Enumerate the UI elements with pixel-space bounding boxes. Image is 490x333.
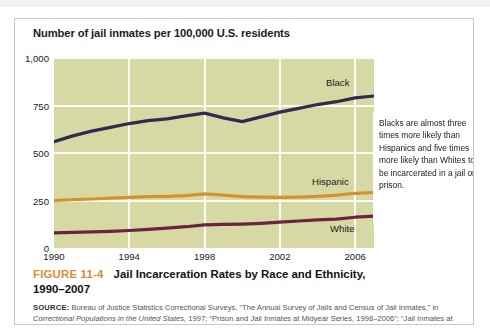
source-text-part1: Bureau of Justice Statistics Correctiona… [69, 303, 438, 312]
series-line-white [54, 216, 374, 233]
figure-title: Jail Incarceration Rates by Race and Eth… [114, 268, 366, 280]
caption-first-line: FIGURE 11-4Jail Incarceration Rates by R… [33, 267, 457, 282]
source-text-italic: Correctional Populations in the United S… [33, 314, 186, 323]
series-line-black [54, 96, 374, 142]
callout-box: Blacks are almost three times more likel… [373, 103, 474, 225]
x-axis-tick: 2006 [345, 251, 366, 262]
series-line-hispanic [54, 193, 374, 201]
x-axis-tick: 1998 [194, 251, 215, 262]
figure-title-second-line: 1990–2007 [33, 282, 457, 297]
y-axis-tick: 750 [33, 100, 49, 111]
series-label-hispanic: Hispanic [312, 176, 349, 187]
page-top-strip [0, 0, 490, 7]
y-axis-tick: 1,000 [25, 53, 49, 64]
y-axis-tick-labels: 02505007501,000 [14, 58, 49, 248]
figure-source: SOURCE: Bureau of Justice Statistics Cor… [33, 302, 457, 326]
x-axis-tick-labels: 19901994199820022006 [54, 251, 374, 267]
callout-text: Blacks are almost three times more likel… [379, 117, 474, 191]
y-axis-tick: 250 [33, 195, 49, 206]
x-axis-tick: 1990 [43, 251, 64, 262]
chart-plot: BlackHispanicWhite [54, 58, 374, 248]
series-label-black: Black [326, 77, 349, 88]
series-label-white: White [330, 223, 355, 234]
x-axis-tick: 1994 [119, 251, 140, 262]
figure-caption: FIGURE 11-4Jail Incarceration Rates by R… [33, 267, 457, 325]
y-axis-tick: 500 [33, 148, 49, 159]
chart-title: Number of jail inmates per 100,000 U.S. … [33, 27, 290, 39]
figure-card: Number of jail inmates per 100,000 U.S. … [14, 18, 474, 325]
x-axis-tick: 2002 [269, 251, 290, 262]
source-label: SOURCE: [33, 303, 69, 312]
figure-number: FIGURE 11-4 [33, 268, 104, 280]
